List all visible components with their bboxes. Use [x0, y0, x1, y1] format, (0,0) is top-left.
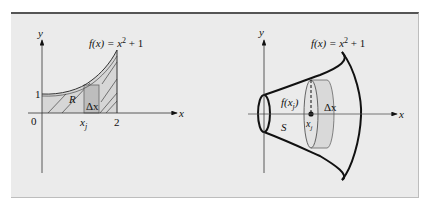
x-tick-2: 2 — [114, 116, 120, 128]
y-axis-label: y — [258, 26, 264, 38]
right-graph: y x f(xj) S xj Δx f(x) = x2 + 1 — [248, 26, 404, 180]
x-axis-label: x — [398, 108, 404, 120]
left-graph: y x 0 1 2 xj R Δx f(x) = x2 + 1 — [28, 27, 184, 173]
delta-x-label: Δx — [324, 101, 337, 113]
surface-label: S — [281, 121, 287, 133]
radius-label: f(xj) — [281, 96, 299, 111]
y-tick-1: 1 — [35, 88, 41, 100]
delta-x-label: Δx — [86, 100, 99, 112]
xj-label: xj — [79, 116, 88, 131]
origin-label: 0 — [31, 115, 37, 127]
function-label: f(x) = x2 + 1 — [311, 36, 365, 50]
surface-bottom-curve — [264, 132, 344, 180]
y-axis-label: y — [37, 27, 43, 39]
region-label: R — [68, 93, 76, 105]
region-r — [42, 50, 117, 113]
surface-top-curve — [264, 52, 345, 95]
surface-far-rim — [342, 52, 361, 180]
figure-svg: y x 0 1 2 xj R Δx f(x) = x2 + 1 y x f(xj… — [0, 0, 430, 208]
x-axis-label: x — [178, 107, 184, 119]
function-label: f(x) = x2 + 1 — [89, 36, 143, 50]
